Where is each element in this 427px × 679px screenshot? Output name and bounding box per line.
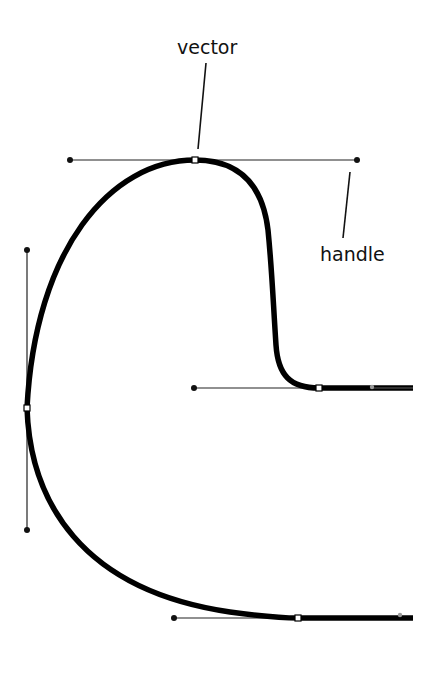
handle-point-top-right[interactable]	[354, 157, 360, 163]
handle-callout-line	[343, 172, 350, 238]
diagram-canvas	[0, 0, 427, 679]
anchor-top[interactable]	[192, 157, 198, 163]
vector-callout-line	[198, 63, 206, 149]
handle-point-top-left[interactable]	[67, 157, 73, 163]
handle-point-bottom[interactable]	[171, 615, 177, 621]
handle-point-left-top[interactable]	[24, 247, 30, 253]
tail-point-middle	[370, 385, 374, 389]
anchor-points	[24, 157, 322, 621]
handle-label: handle	[320, 245, 385, 264]
tail-point-bottom	[398, 613, 402, 617]
anchor-bottom[interactable]	[295, 615, 301, 621]
handle-point-middle[interactable]	[191, 385, 197, 391]
anchor-left[interactable]	[24, 405, 30, 411]
vector-label: vector	[177, 38, 237, 57]
handle-point-left-bottom[interactable]	[24, 527, 30, 533]
bezier-curve	[27, 160, 413, 618]
anchor-middle-right[interactable]	[316, 385, 322, 391]
